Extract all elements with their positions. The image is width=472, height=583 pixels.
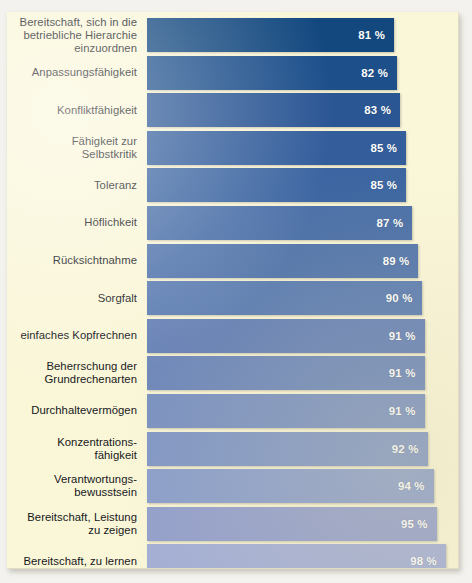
bar-track: 91 % xyxy=(147,394,458,428)
bar-track: 98 % xyxy=(147,544,458,569)
chart-row: Rücksichtnahme89 % xyxy=(7,244,458,278)
bar-track: 90 % xyxy=(147,281,458,315)
chart-row: Toleranz85 % xyxy=(7,168,458,202)
chart-row: Verantwortungs- bewusstsein94 % xyxy=(7,469,458,503)
chart-row: Höflichkeit87 % xyxy=(7,206,458,240)
bar-track: 85 % xyxy=(147,131,458,165)
category-label: Höflichkeit xyxy=(7,216,147,229)
category-label: Anpassungsfähigkeit xyxy=(7,66,147,79)
bar: 91 % xyxy=(147,394,425,428)
bar-value-label: 87 % xyxy=(377,217,404,229)
category-label: einfaches Kopfrechnen xyxy=(7,329,147,342)
bar: 91 % xyxy=(147,319,425,353)
chart-row: Konfliktfähigkeit83 % xyxy=(7,93,458,127)
bar: 89 % xyxy=(147,244,418,278)
bar-track: 87 % xyxy=(147,206,458,240)
bar-value-label: 85 % xyxy=(370,179,397,191)
chart-row: Fähigkeit zur Selbstkritik85 % xyxy=(7,131,458,165)
bar-value-label: 91 % xyxy=(389,330,416,342)
category-label: Konfliktfähigkeit xyxy=(7,104,147,117)
bar: 95 % xyxy=(147,507,437,541)
bar: 85 % xyxy=(147,168,406,202)
category-label: Rücksichtnahme xyxy=(7,254,147,267)
bar: 87 % xyxy=(147,206,412,240)
chart-row: einfaches Kopfrechnen91 % xyxy=(7,319,458,353)
category-label: Konzentrations- fähigkeit xyxy=(7,436,147,462)
bar-value-label: 89 % xyxy=(383,255,410,267)
chart-panel: Bereitschaft, sich in die betriebliche H… xyxy=(7,12,459,569)
bar-value-label: 95 % xyxy=(401,518,428,530)
chart-row: Sorgfalt90 % xyxy=(7,281,458,315)
bar: 91 % xyxy=(147,356,425,390)
bar-value-label: 90 % xyxy=(386,292,413,304)
bar-track: 82 % xyxy=(147,56,458,90)
chart-row: Bereitschaft, sich in die betriebliche H… xyxy=(7,18,458,52)
bar: 85 % xyxy=(147,131,406,165)
chart-row: Bereitschaft, Leistung zu zeigen95 % xyxy=(7,507,458,541)
category-label: Bereitschaft, zu lernen xyxy=(7,555,147,568)
category-label: Bereitschaft, Leistung zu zeigen xyxy=(7,511,147,537)
cropped-title-remnant xyxy=(0,0,472,10)
chart-row: Durchhaltevermögen91 % xyxy=(7,394,458,428)
bar-track: 94 % xyxy=(147,469,458,503)
bar-track: 85 % xyxy=(147,168,458,202)
bar-track: 89 % xyxy=(147,244,458,278)
bar: 92 % xyxy=(147,432,428,466)
bar-value-label: 98 % xyxy=(410,555,437,567)
bar-track: 81 % xyxy=(147,18,458,52)
bar: 81 % xyxy=(147,18,394,52)
chart-row: Konzentrations- fähigkeit92 % xyxy=(7,432,458,466)
bar: 98 % xyxy=(147,544,446,569)
bar-value-label: 91 % xyxy=(389,405,416,417)
category-label: Fähigkeit zur Selbstkritik xyxy=(7,135,147,161)
category-label: Verantwortungs- bewusstsein xyxy=(7,473,147,499)
bar: 94 % xyxy=(147,469,434,503)
bar-track: 95 % xyxy=(147,507,458,541)
bar: 82 % xyxy=(147,56,397,90)
bar-value-label: 94 % xyxy=(398,480,425,492)
chart-row: Anpassungsfähigkeit82 % xyxy=(7,56,458,90)
bar-value-label: 92 % xyxy=(392,443,419,455)
bar-value-label: 83 % xyxy=(364,104,391,116)
bar: 83 % xyxy=(147,93,400,127)
category-label: Bereitschaft, sich in die betriebliche H… xyxy=(7,16,147,55)
bar: 90 % xyxy=(147,281,422,315)
bar-chart: Bereitschaft, sich in die betriebliche H… xyxy=(7,18,458,569)
category-label: Toleranz xyxy=(7,179,147,192)
category-label: Durchhaltevermögen xyxy=(7,404,147,417)
bar-track: 83 % xyxy=(147,93,458,127)
bar-value-label: 85 % xyxy=(370,142,397,154)
bar-track: 91 % xyxy=(147,319,458,353)
bar-track: 91 % xyxy=(147,356,458,390)
bar-value-label: 81 % xyxy=(358,29,385,41)
bar-value-label: 82 % xyxy=(361,67,388,79)
bar-track: 92 % xyxy=(147,432,458,466)
chart-row: Bereitschaft, zu lernen98 % xyxy=(7,544,458,569)
chart-row: Beherrschung der Grundrechenarten91 % xyxy=(7,356,458,390)
category-label: Beherrschung der Grundrechenarten xyxy=(7,360,147,386)
scanned-page: Bereitschaft, sich in die betriebliche H… xyxy=(0,0,472,583)
category-label: Sorgfalt xyxy=(7,292,147,305)
bar-value-label: 91 % xyxy=(389,367,416,379)
